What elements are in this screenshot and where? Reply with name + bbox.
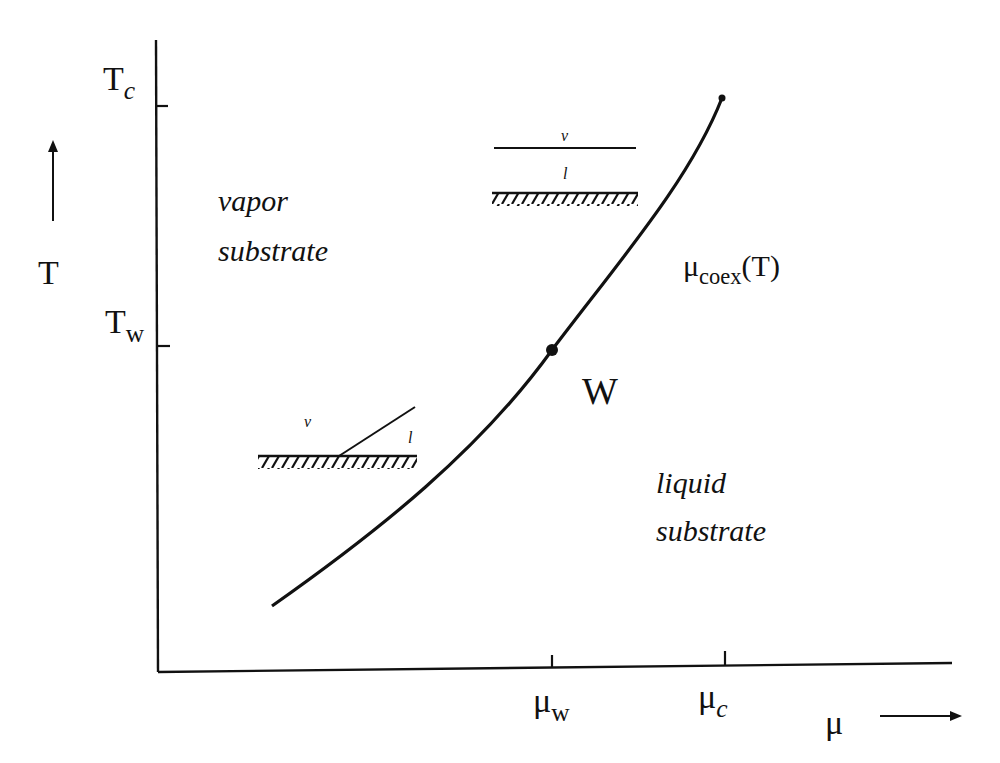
mu-w-label: μw (533, 684, 570, 725)
x-axis (158, 663, 952, 672)
phase-diagram-canvas (0, 0, 1000, 763)
t-arrow-icon (48, 140, 58, 221)
liquid-region-label-2: substrate (656, 516, 766, 546)
tw-label: Tw (105, 305, 144, 346)
wet-inset-liquid-label: l (563, 166, 567, 182)
mu-arrow-icon (880, 711, 962, 721)
y-axis-label: T (38, 256, 59, 290)
y-axis (156, 40, 158, 672)
mu-coex-label: μcoex(T) (683, 251, 780, 288)
vapor-region-label-2: substrate (218, 236, 328, 266)
wetting-point-label: W (582, 372, 618, 410)
critical-point (719, 95, 726, 102)
partial-wetting-inset (258, 407, 417, 469)
coexistence-curve (272, 98, 722, 606)
vapor-region-label-1: vapor (218, 186, 288, 216)
partial-inset-liquid-label: l (408, 430, 412, 446)
liquid-region-label-1: liquid (656, 468, 726, 498)
wetting-point (546, 344, 558, 356)
tc-label: Tc (103, 62, 135, 103)
x-axis-label: μ (825, 706, 843, 740)
partial-inset-vapor-label: v (304, 414, 311, 430)
axes (156, 40, 952, 672)
wet-inset-vapor-label: v (561, 128, 568, 144)
mu-c-label: μc (698, 680, 728, 721)
